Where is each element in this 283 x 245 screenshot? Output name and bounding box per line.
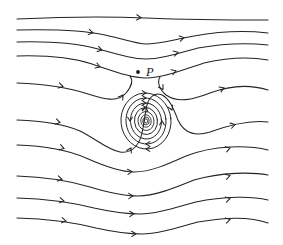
vortex-closed-orbit bbox=[140, 114, 152, 127]
streamline-path bbox=[17, 173, 268, 196]
vortex-loops-group bbox=[118, 91, 174, 152]
point-markers-group bbox=[136, 70, 140, 74]
streamline-figure: P bbox=[0, 0, 283, 245]
flow-arrow-icon bbox=[160, 121, 165, 125]
streamline-path bbox=[17, 197, 268, 214]
streamline-path bbox=[17, 76, 132, 99]
flow-arrowheads-group bbox=[55, 15, 236, 237]
flow-arrow-icon bbox=[57, 176, 62, 182]
streamline-path bbox=[159, 77, 268, 100]
vortex-closed-orbit bbox=[142, 117, 149, 125]
vector-field-canvas bbox=[0, 0, 283, 245]
streamline-path bbox=[17, 218, 268, 234]
flow-arrow-icon bbox=[225, 145, 231, 151]
flow-arrow-icon bbox=[128, 117, 133, 121]
streamline-path bbox=[17, 17, 268, 20]
streamline-path bbox=[17, 30, 268, 44]
flow-arrow-icon bbox=[59, 198, 64, 204]
vortex-closed-orbit bbox=[137, 111, 155, 132]
flow-arrow-icon bbox=[173, 50, 179, 56]
point-dot-marker bbox=[136, 70, 140, 74]
flow-arrow-icon bbox=[61, 218, 66, 224]
flow-arrow-icon bbox=[225, 196, 230, 202]
vortex-closed-orbit bbox=[144, 119, 148, 124]
vortex-closed-orbit bbox=[118, 91, 174, 152]
point-label-p: P bbox=[146, 66, 154, 79]
